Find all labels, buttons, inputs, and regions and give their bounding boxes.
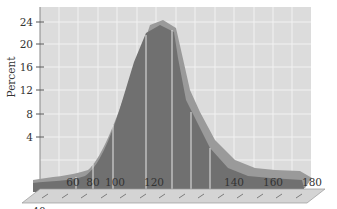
y-tick-24: 24: [20, 16, 34, 28]
y-tick-4: 4: [26, 131, 33, 143]
y-tick-16: 16: [20, 61, 34, 73]
x-tick-labels: 40: [32, 205, 45, 209]
iq-distribution-chart: 24 20 16 12 8 4 Percent 40: [0, 0, 337, 209]
y-tick-12: 12: [20, 84, 33, 96]
y-tick-20: 20: [20, 38, 33, 50]
y-tick-8: 8: [26, 108, 33, 120]
y-axis-label: Percent: [5, 56, 17, 98]
x-tick-label-40: 40: [32, 205, 45, 209]
